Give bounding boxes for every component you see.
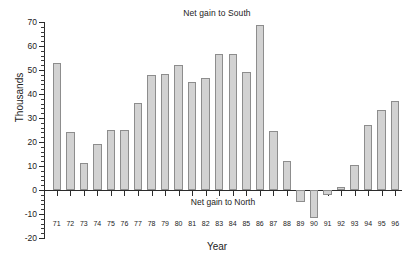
x-tick-mark — [165, 190, 166, 196]
bar — [120, 130, 128, 190]
y-tick-mark — [39, 214, 45, 215]
bar — [161, 74, 169, 190]
x-tick-label: 81 — [188, 220, 196, 227]
bar — [147, 75, 155, 190]
y-tick-mark — [39, 142, 45, 143]
y-tick-minor — [41, 185, 45, 186]
bar — [174, 65, 182, 190]
y-tick-minor — [41, 137, 45, 138]
y-tick-minor — [41, 36, 45, 37]
y-tick-minor — [41, 128, 45, 129]
y-tick-minor — [41, 32, 45, 33]
y-tick-minor — [41, 99, 45, 100]
y-tick-mark — [39, 190, 45, 191]
x-tick-label: 86 — [256, 220, 264, 227]
net-gain-north-annotation: Net gain to North — [44, 197, 402, 207]
net-gain-south-annotation: Net gain to South — [28, 8, 406, 18]
x-tick-label: 71 — [53, 220, 61, 227]
bar — [377, 110, 385, 190]
bar — [80, 163, 88, 190]
y-tick-minor — [41, 123, 45, 124]
x-tick-label: 85 — [242, 220, 250, 227]
y-tick-minor — [41, 152, 45, 153]
x-tick-mark — [395, 190, 396, 196]
bar — [350, 165, 358, 190]
chart-figure: Net gain to South Thousands -20-10010203… — [0, 0, 413, 260]
x-tick-label: 82 — [202, 220, 210, 227]
x-tick-label: 93 — [351, 220, 359, 227]
y-tick-mark — [39, 238, 45, 239]
x-tick-mark — [287, 190, 288, 196]
y-tick-minor — [41, 41, 45, 42]
x-tick-mark — [192, 190, 193, 196]
x-tick-mark — [233, 190, 234, 196]
x-tick-mark — [341, 190, 342, 196]
bar — [229, 54, 237, 190]
x-tick-label: 95 — [378, 220, 386, 227]
y-tick-minor — [41, 156, 45, 157]
x-tick-mark — [219, 190, 220, 196]
x-tick-label: 76 — [121, 220, 129, 227]
x-tick-label: 74 — [93, 220, 101, 227]
x-tick-label: 96 — [391, 220, 399, 227]
x-tick-label: 78 — [148, 220, 156, 227]
x-tick-label: 88 — [283, 220, 291, 227]
x-tick-mark — [97, 190, 98, 196]
y-tick-minor — [41, 56, 45, 57]
bar — [201, 78, 209, 190]
y-tick-minor — [41, 228, 45, 229]
y-axis-label: Thousands — [14, 43, 25, 153]
y-tick-mark — [39, 70, 45, 71]
x-tick-label: 87 — [269, 220, 277, 227]
x-tick-label: 92 — [337, 220, 345, 227]
x-tick-label: 72 — [66, 220, 74, 227]
x-tick-label: 90 — [310, 220, 318, 227]
bar — [283, 161, 291, 190]
x-tick-mark — [368, 190, 369, 196]
y-tick-label: 50 — [28, 65, 37, 75]
y-tick-mark — [39, 94, 45, 95]
y-tick-label: -10 — [25, 209, 37, 219]
bar — [134, 103, 142, 190]
plot-area: -20-10010203040506070 717273747576777879… — [44, 22, 402, 238]
y-tick-minor — [41, 65, 45, 66]
y-tick-minor — [41, 51, 45, 52]
y-tick-minor — [41, 233, 45, 234]
y-tick-label: 20 — [28, 137, 37, 147]
y-tick-minor — [41, 27, 45, 28]
x-tick-mark — [124, 190, 125, 196]
y-tick-minor — [41, 176, 45, 177]
bar — [188, 82, 196, 190]
bar — [364, 125, 372, 190]
bar — [93, 144, 101, 190]
x-tick-mark — [382, 190, 383, 196]
bar — [107, 130, 115, 190]
y-tick-label: 30 — [28, 113, 37, 123]
y-tick-label: 40 — [28, 89, 37, 99]
x-tick-mark — [57, 190, 58, 196]
bar — [66, 132, 74, 190]
y-tick-label: 70 — [28, 17, 37, 27]
y-tick-label: 60 — [28, 41, 37, 51]
x-tick-label: 94 — [364, 220, 372, 227]
x-tick-mark — [179, 190, 180, 196]
bar — [53, 63, 61, 190]
x-tick-mark — [152, 190, 153, 196]
x-tick-mark — [206, 190, 207, 196]
y-tick-minor — [41, 89, 45, 90]
y-tick-minor — [41, 195, 45, 196]
y-tick-minor — [41, 209, 45, 210]
y-tick-mark — [39, 118, 45, 119]
bar — [269, 131, 277, 190]
y-tick-minor — [41, 180, 45, 181]
bar — [242, 72, 250, 190]
x-tick-label: 89 — [297, 220, 305, 227]
x-tick-mark — [260, 190, 261, 196]
y-tick-label: 0 — [32, 185, 37, 195]
x-tick-label: 77 — [134, 220, 142, 227]
y-tick-minor — [41, 108, 45, 109]
bar — [215, 54, 223, 190]
x-tick-label: 79 — [161, 220, 169, 227]
x-tick-mark — [138, 190, 139, 196]
x-tick-mark — [70, 190, 71, 196]
